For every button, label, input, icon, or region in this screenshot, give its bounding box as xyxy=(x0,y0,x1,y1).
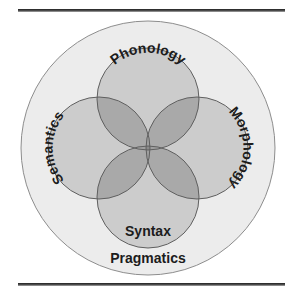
pragmatics-label: Pragmatics xyxy=(110,250,186,266)
bottom-horizontal-rule xyxy=(18,283,285,286)
figure-root: Phonology Morphology Semantics Syntax Pr… xyxy=(0,0,297,297)
syntax-label: Syntax xyxy=(125,223,171,239)
venn-diagram: Phonology Morphology Semantics Syntax Pr… xyxy=(0,0,297,297)
